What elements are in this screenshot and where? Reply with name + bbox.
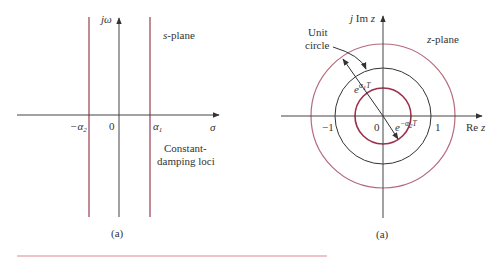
z-plane-caption: (a) bbox=[376, 228, 389, 241]
sigma-axis-label: σ bbox=[210, 121, 216, 133]
z-plane-panel: j Im z z-plane Unit circle eα1T −1 0 1 e… bbox=[281, 12, 486, 241]
s-plane-panel: jω s-plane −α2 0 α1 σ Constant- damping … bbox=[17, 13, 219, 240]
loci-label-line2: damping loci bbox=[157, 155, 215, 167]
outer-radius-label: eα1T bbox=[354, 81, 371, 95]
loci-label-line1: Constant- bbox=[164, 142, 207, 154]
tick-neg-alpha2: −α2 bbox=[70, 120, 87, 134]
s-tick-zero: 0 bbox=[109, 120, 115, 132]
z-tick-neg-one: −1 bbox=[322, 121, 334, 133]
s-plane-title: s-plane bbox=[163, 29, 195, 41]
s-plane-caption: (a) bbox=[111, 227, 124, 240]
z-tick-zero: 0 bbox=[374, 121, 380, 133]
unit-circle-pointer-arrow bbox=[333, 47, 366, 69]
im-axis-label: j Im z bbox=[348, 12, 376, 24]
z-plane-title: z-plane bbox=[426, 33, 459, 45]
re-axis-label: Re z bbox=[466, 121, 486, 133]
z-tick-one: 1 bbox=[435, 121, 441, 133]
tick-alpha1: α1 bbox=[153, 120, 162, 134]
unit-circle-label-line2: circle bbox=[305, 39, 330, 51]
figure: jω s-plane −α2 0 α1 σ Constant- damping … bbox=[0, 0, 497, 261]
unit-circle-label-line1: Unit bbox=[308, 26, 328, 38]
jw-axis-label: jω bbox=[99, 13, 112, 25]
